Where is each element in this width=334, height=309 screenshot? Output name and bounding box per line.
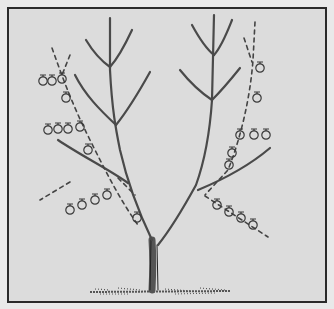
fruit-cluster-lower-left — [66, 189, 111, 214]
fruit-cluster-middle-right — [236, 129, 270, 139]
trunk — [150, 240, 158, 290]
ground-grass — [90, 288, 230, 294]
fruit-cluster-upper-left — [39, 73, 66, 85]
dashed-guide-lines — [40, 22, 268, 237]
fruit-clusters — [39, 62, 270, 229]
fruit-cluster-middle-left — [44, 121, 84, 134]
fruit-cluster-lower-right — [213, 199, 257, 229]
tree-illustration — [0, 0, 334, 309]
fruit-cluster-right-dashed — [225, 147, 236, 169]
fruit-cluster-upper-right — [253, 62, 264, 102]
